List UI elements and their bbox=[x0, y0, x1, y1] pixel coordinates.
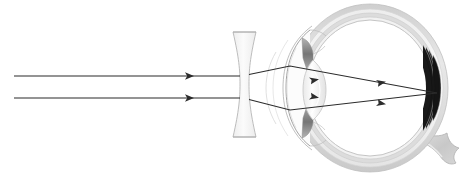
corrective-lens-group bbox=[233, 32, 256, 137]
biconcave-diverging-lens bbox=[233, 32, 256, 137]
eye-optics-svg bbox=[0, 0, 470, 177]
eye-globe bbox=[266, 4, 459, 172]
diagram-canvas: Myopia correction with a diverging lens bbox=[0, 0, 470, 177]
anterior-arc-outer bbox=[266, 52, 276, 124]
